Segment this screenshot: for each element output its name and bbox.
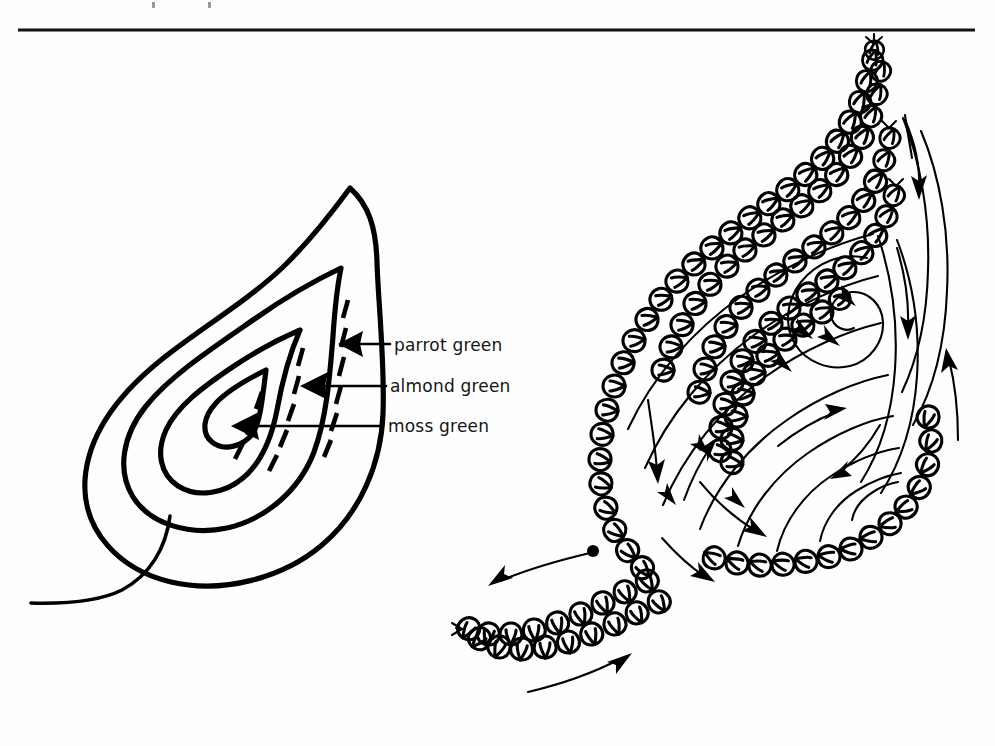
- label-almond-green: almond green: [390, 376, 511, 396]
- label-parrot-green: parrot green: [394, 335, 502, 355]
- header-rule: [18, 2, 975, 30]
- tail-start-marker: [488, 545, 599, 586]
- left-paisley-diagram: parrot green almond green moss green: [31, 188, 511, 603]
- figure-illustration: parrot green almond green moss green: [0, 0, 995, 746]
- tail-tie-off: [452, 623, 462, 635]
- top-tip-stitches: [863, 34, 885, 61]
- paisley-tail: [31, 516, 170, 603]
- tail-chain-upper: [454, 566, 662, 648]
- label-moss-green: moss green: [388, 416, 489, 436]
- leader-moss-green: [231, 412, 382, 440]
- right-paisley-diagram: [452, 34, 958, 692]
- leader-almond-green: [300, 372, 386, 400]
- page-canvas: parrot green almond green moss green: [0, 0, 995, 746]
- band-almond-green: [161, 330, 300, 493]
